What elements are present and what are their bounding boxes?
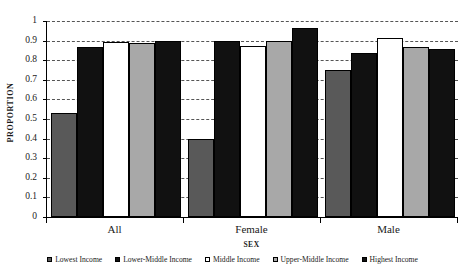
y-tick-label: 0.9 [9,36,37,46]
y-tick-label: 0.2 [9,173,37,183]
bar-group [321,21,458,217]
bar [240,46,266,218]
legend-label: Lower-Middle Income [123,255,192,264]
bar [292,28,318,217]
legend-label: Upper-Middle Income [281,255,349,264]
x-axis-title: SEX [46,240,457,249]
legend-swatch-icon [205,257,210,262]
x-tick-mark [457,218,458,223]
bar [214,41,240,217]
bar-groups [47,21,458,217]
bar [266,41,292,217]
bar [325,70,351,217]
bar-chart: PROPORTION 10.90.80.70.60.50.40.30.20.10… [0,0,465,277]
x-tick-label: Male [320,223,457,235]
bar-group [184,21,321,217]
legend-label: Highest Income [370,255,418,264]
bar [403,47,429,217]
legend-item[interactable]: Lowest Income [47,255,102,264]
bar [188,139,214,217]
legend-item[interactable]: Upper-Middle Income [273,255,349,264]
bar [77,47,103,217]
plot-area: 10.90.80.70.60.50.40.30.20.10 [46,21,458,218]
y-tick-label: 0.7 [9,75,37,85]
y-tick-label: 0.1 [9,193,37,203]
bar [351,53,377,217]
bar [51,113,77,217]
x-tick-label: All [46,223,183,235]
chart-legend: Lowest IncomeLower-Middle IncomeMiddle I… [0,255,465,264]
y-tick-label: 0.8 [9,55,37,65]
x-axis-labels: AllFemaleMale [46,223,457,235]
legend-swatch-icon [273,257,278,262]
bar-group [47,21,184,217]
bar [155,41,181,217]
bar [429,49,455,217]
legend-swatch-icon [115,257,120,262]
y-tick-label: 0 [9,212,37,222]
legend-item[interactable]: Middle Income [205,255,260,264]
legend-swatch-icon [362,257,367,262]
legend-label: Middle Income [213,255,260,264]
y-tick-label: 0.5 [9,114,37,124]
x-tick-label: Female [183,223,320,235]
bar [129,43,155,217]
bar [103,42,129,217]
legend-swatch-icon [47,257,52,262]
legend-item[interactable]: Highest Income [362,255,418,264]
y-tick-label: 0.3 [9,153,37,163]
legend-item[interactable]: Lower-Middle Income [115,255,192,264]
y-tick-label: 0.4 [9,134,37,144]
y-axis-title: PROPORTION [0,0,22,225]
bar [377,38,403,217]
y-tick-label: 0.6 [9,95,37,105]
legend-label: Lowest Income [55,255,102,264]
y-tick-label: 1 [9,16,37,26]
